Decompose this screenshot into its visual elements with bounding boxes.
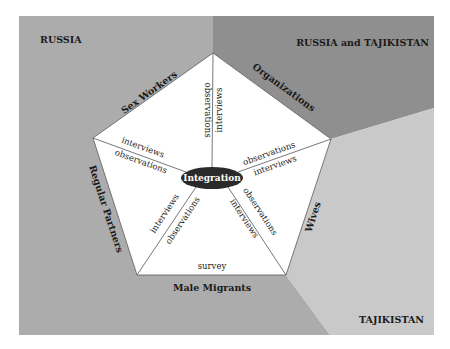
region-label-tajikistan: TAJIKISTAN (359, 314, 424, 325)
integration-label: Integration (183, 173, 241, 183)
side-label-male-migrants: Male Migrants (173, 282, 251, 293)
region-label-russia-and-tajikistan: RUSSIA and TAJIKISTAN (296, 37, 429, 48)
method-label: interviews (214, 88, 224, 133)
method-label: survey (198, 261, 227, 271)
region-label-russia: RUSSIA (40, 34, 82, 45)
research-design-diagram: Integration RUSSIA RUSSIA and TAJIKISTAN… (0, 0, 450, 349)
method-label: observations (203, 83, 213, 138)
